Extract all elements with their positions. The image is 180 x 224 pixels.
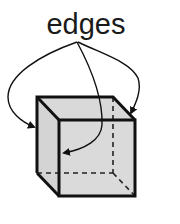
cube-edges-diagram: edges [0,0,180,224]
front-face [59,120,135,196]
cube-diagram-svg [0,0,180,224]
